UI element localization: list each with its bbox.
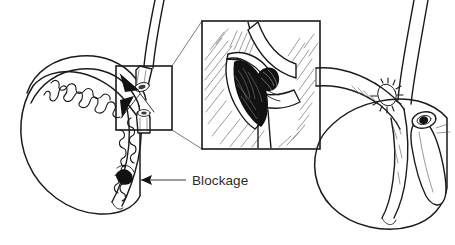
left-panel-blocked-side [21,0,164,214]
right-panel-repaired-side [315,0,450,229]
callout-connector-bottom [172,130,202,149]
right-cut-duct-end [411,110,450,205]
right-suture-ring [371,78,403,113]
blockage-label: Blockage [192,173,248,188]
right-epididymis-descending-inner [382,118,395,218]
right-vas-deferens-inner [411,0,428,104]
callout-connector-top [172,21,202,66]
blockage-gap-line-c [139,92,154,112]
blockage-callout: Blockage [141,173,248,188]
inset-detail-panel [202,21,320,149]
right-epididymis-upper-edge [316,68,404,109]
left-vas-deferens-outer [144,0,155,66]
left-vas-deferens-inner [153,0,164,68]
right-epididymis-descending-outer [394,109,408,218]
anatomy-illustration: Blockage [0,0,455,245]
blockage-gap-wedge-lower [120,96,134,118]
left-epididymis-tail [112,202,123,209]
right-vas-deferens-outer [398,0,414,100]
illustration-canvas: Blockage [0,0,455,245]
right-epididymis-tail [382,218,396,225]
